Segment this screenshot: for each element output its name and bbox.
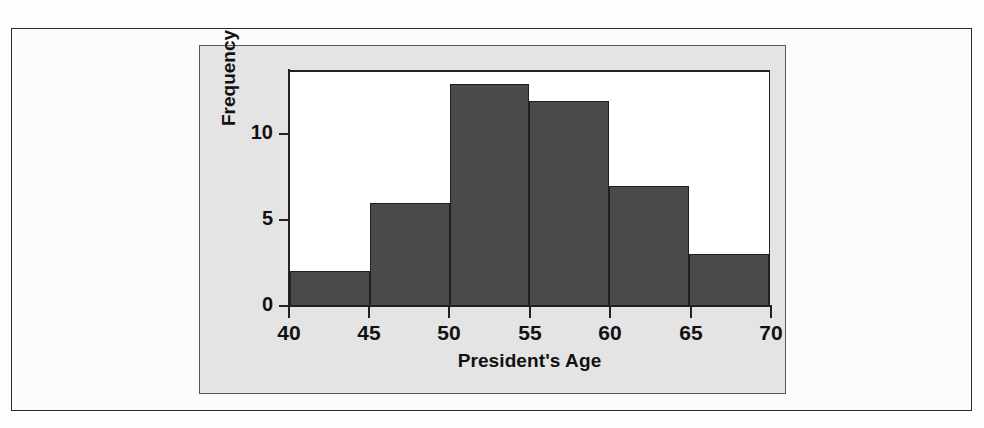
- x-axis-tick-label: 50: [437, 321, 460, 345]
- x-axis-tick: 45: [368, 307, 370, 318]
- figure-frame: 0 5 10 40 45 50 55 60: [11, 28, 972, 411]
- x-axis-tick-label: 60: [598, 321, 621, 345]
- y-axis-tick-label: 5: [262, 207, 273, 229]
- x-axis-tick-label: 55: [518, 321, 541, 345]
- histogram-bar[interactable]: [370, 203, 450, 305]
- x-axis-tick: 65: [690, 307, 692, 318]
- x-axis-tick-label: 45: [357, 321, 380, 345]
- x-axis-tick: 55: [529, 307, 531, 318]
- x-axis-tick-label: 65: [679, 321, 702, 345]
- x-axis-title: President's Age: [289, 350, 770, 372]
- x-axis-tick: 50: [448, 307, 450, 318]
- y-axis-tick: 5: [279, 219, 289, 221]
- histogram-bar[interactable]: [290, 271, 370, 305]
- histogram-bar[interactable]: [689, 254, 769, 305]
- histogram-chart-panel: 0 5 10 40 45 50 55 60: [199, 45, 786, 394]
- plot-area: [289, 70, 770, 306]
- histogram-bar[interactable]: [450, 84, 530, 305]
- x-axis-tick: 60: [609, 307, 611, 318]
- bar-series: [290, 72, 769, 305]
- y-axis-tick: 10: [279, 133, 289, 135]
- scanned-page-background: 0 5 10 40 45 50 55 60: [0, 0, 984, 428]
- y-axis-title: Frequency: [218, 30, 240, 126]
- x-axis-tick: 40: [288, 307, 290, 318]
- x-axis-tick: 70: [770, 307, 772, 318]
- histogram-bar[interactable]: [529, 101, 609, 305]
- y-axis-tick-label: 10: [251, 121, 273, 143]
- y-axis-line: [288, 69, 290, 307]
- x-axis-tick-label: 40: [277, 321, 300, 345]
- x-axis-tick-label: 70: [759, 321, 782, 345]
- y-axis-tick-label: 0: [262, 293, 273, 315]
- histogram-bar[interactable]: [609, 186, 689, 305]
